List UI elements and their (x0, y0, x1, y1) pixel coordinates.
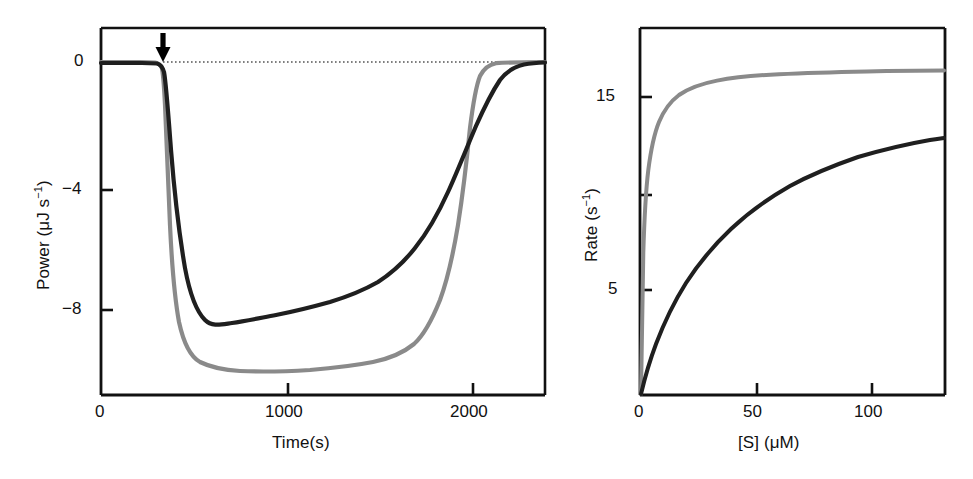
itc-xtick-2000: 2000 (450, 402, 488, 422)
mm-y-axis-title: Rate (s−1) (582, 188, 602, 262)
itc-y-axis-title-prefix: Power ( (34, 231, 53, 290)
mm-dark-curve (641, 138, 944, 394)
itc-xtick-1000: 1000 (265, 402, 303, 422)
mm-ytick-15: 15 (596, 86, 615, 106)
mm-x-axis-title-unit: μM (770, 433, 794, 452)
mm-xtick-0: 0 (634, 402, 643, 422)
itc-ytick-0: 0 (74, 51, 83, 71)
itc-ytick-minus4: −4 (62, 179, 81, 199)
panel-michaelis-menten: 15 5 0 50 100 Rate (s−1) [S] (μM) (560, 0, 973, 479)
itc-y-axis-title-suffix: ) (34, 180, 53, 186)
itc-xtick-0: 0 (95, 402, 104, 422)
itc-x-ticks (288, 383, 473, 395)
mm-xtick-50: 50 (743, 402, 762, 422)
mm-x-axis-title-prefix: [S] ( (738, 433, 770, 452)
mm-ytick-5: 5 (608, 279, 617, 299)
injection-start-arrow (156, 33, 171, 62)
mm-xtick-100: 100 (854, 402, 882, 422)
figure-root: 0 −4 −8 0 1000 2000 Power (μJ s−1) Time(… (0, 0, 973, 479)
mm-y-axis-title-exponent: −1 (580, 194, 592, 207)
mm-y-axis-title-suffix: ) (582, 188, 601, 194)
itc-ytick-minus8: −8 (62, 299, 81, 319)
mm-x-axis-title-suffix: ) (794, 433, 800, 452)
mm-gray-curve (641, 70, 944, 394)
mm-y-axis-title-prefix: Rate (s (582, 207, 601, 263)
mm-x-ticks (757, 383, 872, 395)
mm-axes-frame (640, 28, 945, 395)
michaelis-menten-plot-svg (560, 0, 973, 479)
itc-x-axis-title: Time(s) (272, 433, 330, 453)
itc-y-axis-title-unit: μJ s (34, 199, 53, 231)
itc-y-axis-title: Power (μJ s−1) (34, 180, 54, 290)
panel-itc-power-trace: 0 −4 −8 0 1000 2000 Power (μJ s−1) Time(… (0, 0, 600, 479)
itc-y-axis-title-exponent: −1 (32, 186, 44, 199)
mm-x-axis-title: [S] (μM) (738, 433, 800, 453)
itc-y-ticks (101, 62, 113, 310)
